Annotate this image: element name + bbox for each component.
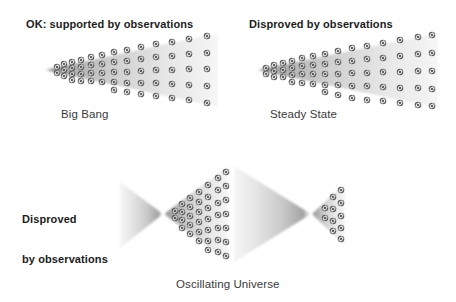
steady-state-caption: Steady State (270, 107, 337, 121)
big-bang-cone-group (44, 33, 218, 107)
steady-state-cone-group (256, 32, 438, 109)
contracting-cone-shape (234, 166, 311, 262)
oscillating-universe-group (120, 166, 345, 262)
steady-state-heading: Disproved by observations (249, 18, 393, 31)
diagram-canvas: OK: supported by observations Disproved … (0, 0, 456, 302)
oscillating-verdict-line1: Disproved (22, 213, 108, 226)
oscillating-universe-caption: Oscillating Universe (176, 277, 280, 291)
oscillating-verdict: Disproved by observations (22, 186, 108, 293)
contracting-cone-shape (120, 182, 163, 248)
big-bang-caption: Big Bang (61, 107, 108, 121)
big-bang-heading: OK: supported by observations (26, 18, 193, 31)
oscillating-verdict-line2: by observations (22, 253, 108, 266)
